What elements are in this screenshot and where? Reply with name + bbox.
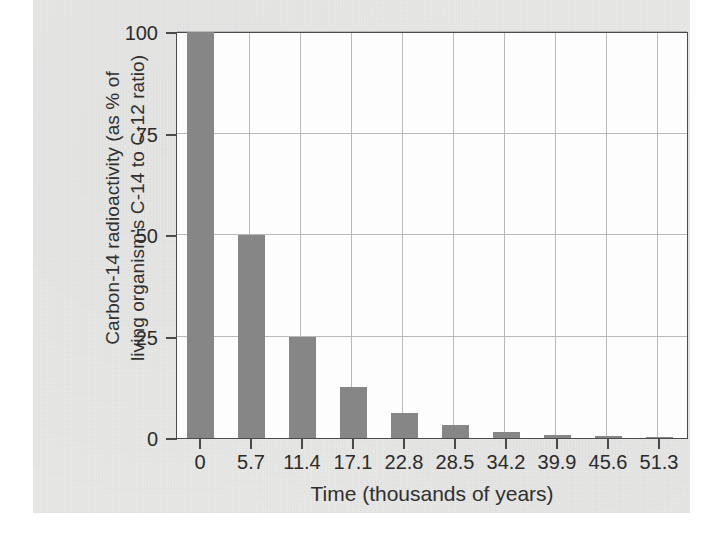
x-axis-title: Time (thousands of years) [176, 481, 688, 507]
x-tick-label-51.3: 51.3 [629, 452, 689, 472]
y-tick-label-0: 0 [112, 429, 158, 449]
x-tick-mark-22.8 [403, 439, 405, 449]
x-tick-mark-34.2 [505, 439, 507, 449]
bar-28.5 [442, 425, 469, 438]
bar-0 [187, 32, 214, 438]
bar-22.8 [391, 413, 418, 438]
bar-11.4 [289, 337, 316, 439]
gridline-vertical-51.3 [657, 33, 658, 438]
plot-area [176, 32, 688, 439]
bar-51.3 [646, 437, 673, 438]
y-tick-mark-75 [166, 134, 177, 136]
x-tick-mark-28.5 [454, 439, 456, 449]
y-tick-label-100: 100 [112, 23, 158, 43]
gridline-horizontal-75 [177, 133, 687, 134]
x-tick-mark-5.7 [250, 439, 252, 449]
y-tick-mark-100 [166, 32, 177, 34]
gridline-vertical-28.5 [453, 33, 454, 438]
bar-45.6 [595, 436, 622, 438]
x-tick-mark-11.4 [301, 439, 303, 449]
y-tick-mark-25 [166, 337, 177, 339]
x-tick-mark-17.1 [352, 439, 354, 449]
gridline-vertical-34.2 [504, 33, 505, 438]
y-tick-mark-50 [166, 235, 177, 237]
gridline-vertical-17.1 [351, 33, 352, 438]
bar-17.1 [340, 387, 367, 438]
y-tick-label-75: 75 [112, 125, 158, 145]
y-axis-title: Carbon-14 radioactivity (as % of living … [100, 0, 160, 418]
x-tick-mark-45.6 [607, 439, 609, 449]
gridline-vertical-45.6 [606, 33, 607, 438]
x-tick-mark-51.3 [658, 439, 660, 449]
y-tick-mark-0 [166, 438, 177, 440]
y-tick-label-50: 50 [112, 226, 158, 246]
x-tick-mark-39.9 [556, 439, 558, 449]
gridline-horizontal-100 [177, 31, 687, 32]
y-tick-label-25: 25 [112, 328, 158, 348]
bar-39.9 [544, 435, 571, 438]
gridline-vertical-22.8 [402, 33, 403, 438]
bar-5.7 [238, 235, 265, 438]
gridline-vertical-39.9 [555, 33, 556, 438]
x-tick-mark-0 [199, 439, 201, 449]
bar-34.2 [493, 432, 520, 438]
